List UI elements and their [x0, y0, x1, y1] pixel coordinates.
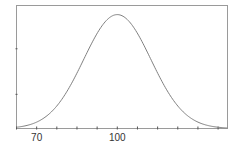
plot-frame — [17, 6, 228, 129]
x-tick-label: 70 — [31, 132, 43, 143]
x-axis-labels: 70100 — [31, 132, 126, 143]
x-tick-label: 100 — [109, 132, 126, 143]
density-curve — [17, 15, 228, 128]
bell-curve-chart: 70100 — [0, 0, 239, 154]
